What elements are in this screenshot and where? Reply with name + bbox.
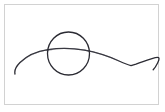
drawing-canvas-frame[interactable] [4, 4, 159, 105]
sketch-image-root [0, 0, 165, 112]
wavy-baseline-curve-stroke [15, 48, 159, 74]
wavy-baseline-curve-shadow-stroke [21, 48, 119, 62]
circle-outline-stroke [48, 32, 90, 75]
sketch-drawing[interactable] [5, 5, 160, 106]
